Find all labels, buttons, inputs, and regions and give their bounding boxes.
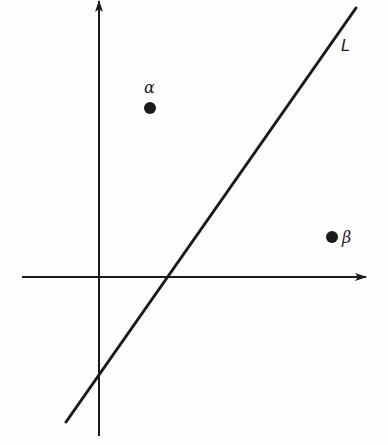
diagram-canvas [0, 0, 388, 445]
point-alpha [144, 102, 156, 114]
point-beta [326, 231, 338, 243]
line-l [66, 8, 356, 422]
coordinate-diagram: α β L [0, 0, 388, 445]
point-beta-label: β [342, 230, 351, 246]
line-l-label: L [341, 38, 350, 54]
point-alpha-label: α [144, 80, 155, 96]
